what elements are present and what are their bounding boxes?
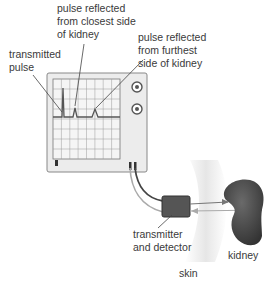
label-closest-reflection: pulse reflected from closest side of kid… bbox=[57, 2, 136, 41]
transducer bbox=[162, 196, 190, 217]
label-transmitted-pulse: transmitted pulse bbox=[9, 48, 61, 74]
power-switch bbox=[55, 160, 58, 166]
kidney-shape bbox=[224, 180, 264, 246]
label-skin: skin bbox=[179, 267, 198, 280]
oscilloscope bbox=[47, 73, 147, 172]
label-furthest-reflection: pulse reflected from furthest side of ki… bbox=[138, 31, 206, 70]
label-kidney: kidney bbox=[228, 249, 258, 262]
cable-light bbox=[130, 168, 163, 212]
label-transducer: transmitter and detector bbox=[133, 228, 191, 254]
